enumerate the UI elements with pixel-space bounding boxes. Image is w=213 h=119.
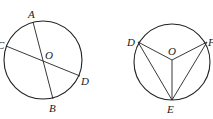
- figure-left: A B C D O: [0, 8, 89, 114]
- label-o-left: O: [45, 49, 53, 61]
- diameter-cd: [6, 46, 80, 76]
- label-e: E: [166, 103, 174, 115]
- label-f: F: [207, 36, 213, 48]
- label-b: B: [49, 102, 56, 114]
- label-c: C: [0, 39, 5, 51]
- label-o-right: O: [168, 45, 176, 57]
- label-d: D: [80, 75, 89, 87]
- label-a: A: [27, 8, 35, 20]
- figure-right: D F E O: [126, 24, 213, 115]
- label-d-right: D: [126, 36, 135, 48]
- geometry-diagram: A B C D O D F E O: [0, 0, 213, 119]
